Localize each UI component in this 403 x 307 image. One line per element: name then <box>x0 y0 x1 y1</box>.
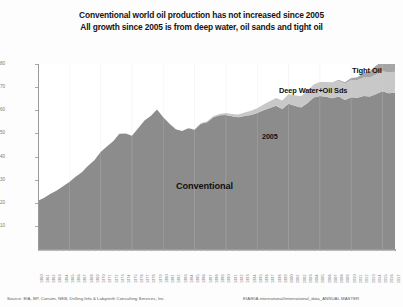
x-tick-label-1986: 1986 <box>202 274 206 283</box>
y-tick-label-70: 70 <box>0 84 5 89</box>
x-tick-mark-1962 <box>51 249 52 251</box>
x-tick-mark-2003 <box>307 249 308 251</box>
y-tick-mark-70 <box>35 87 38 88</box>
x-tick-mark-1994 <box>251 249 252 251</box>
y-axis-line <box>38 64 39 250</box>
x-tick-mark-1965 <box>69 249 70 251</box>
x-tick-label-2009: 2009 <box>346 274 350 283</box>
x-tick-mark-1961 <box>44 249 45 251</box>
area-series-conventional <box>38 91 395 249</box>
y-tick-label-10: 10 <box>0 223 5 228</box>
x-tick-mark-2002 <box>301 249 302 251</box>
x-tick-label-1968: 1968 <box>90 274 94 283</box>
x-tick-label-1976: 1976 <box>140 274 144 283</box>
y-tick-label-50: 50 <box>0 130 5 135</box>
y-tick-label-40: 40 <box>0 154 5 159</box>
x-tick-mark-1982 <box>176 249 177 251</box>
x-tick-label-1993: 1993 <box>246 274 250 283</box>
x-tick-mark-1966 <box>76 249 77 251</box>
x-tick-label-1990: 1990 <box>227 274 231 283</box>
y-tick-label-60: 60 <box>0 107 5 112</box>
x-tick-label-1992: 1992 <box>240 274 244 283</box>
x-tick-mark-1999 <box>282 249 283 251</box>
x-tick-label-2007: 2007 <box>334 274 338 283</box>
x-tick-mark-1979 <box>157 249 158 251</box>
x-tick-label-1962: 1962 <box>52 274 56 283</box>
x-tick-mark-1964 <box>63 249 64 251</box>
x-tick-label-1996: 1996 <box>265 274 269 283</box>
x-tick-label-1985: 1985 <box>196 274 200 283</box>
chart-title-block: Conventional world oil production has no… <box>0 10 403 33</box>
x-tick-mark-2013 <box>370 249 371 251</box>
x-tick-mark-1997 <box>270 249 271 251</box>
x-tick-label-1994: 1994 <box>253 274 257 283</box>
x-tick-mark-1989 <box>220 249 221 251</box>
x-tick-mark-1983 <box>182 249 183 251</box>
x-tick-label-1960: 1960 <box>40 274 44 283</box>
x-tick-mark-2008 <box>339 249 340 251</box>
annotation-year-2005: 2005 <box>262 132 278 141</box>
y-tick-mark-10 <box>35 226 38 227</box>
x-tick-label-1973: 1973 <box>121 274 125 283</box>
x-tick-label-1961: 1961 <box>46 274 50 283</box>
y-tick-mark-30 <box>35 180 38 181</box>
x-tick-label-1978: 1978 <box>152 274 156 283</box>
x-axis-ticks: 1960196119621963196419651966196719681969… <box>38 251 395 285</box>
x-tick-label-2008: 2008 <box>340 274 344 283</box>
x-tick-label-1966: 1966 <box>77 274 81 283</box>
x-tick-mark-1980 <box>163 249 164 251</box>
x-tick-label-1983: 1983 <box>184 274 188 283</box>
x-tick-label-1988: 1988 <box>215 274 219 283</box>
x-tick-label-1997: 1997 <box>271 274 275 283</box>
x-tick-label-1989: 1989 <box>221 274 225 283</box>
x-tick-mark-1986 <box>201 249 202 251</box>
x-tick-mark-1975 <box>132 249 133 251</box>
x-tick-mark-1981 <box>170 249 171 251</box>
y-tick-label-20: 20 <box>0 200 5 205</box>
footer-source-left: Source: EIA, BP, Cansim, NEB, Drilling I… <box>7 296 165 301</box>
chart-title-line-1: Conventional world oil production has no… <box>0 10 403 22</box>
x-tick-label-1965: 1965 <box>71 274 75 283</box>
x-tick-mark-1971 <box>107 249 108 251</box>
x-tick-mark-1970 <box>101 249 102 251</box>
x-tick-mark-2016 <box>389 249 390 251</box>
x-tick-mark-1974 <box>126 249 127 251</box>
x-tick-mark-1978 <box>151 249 152 251</box>
x-tick-mark-1960 <box>38 249 39 251</box>
x-tick-label-1975: 1975 <box>134 274 138 283</box>
x-tick-label-1991: 1991 <box>234 274 238 283</box>
x-tick-mark-1992 <box>238 249 239 251</box>
y-tick-mark-20 <box>35 203 38 204</box>
x-tick-mark-1988 <box>213 249 214 251</box>
x-tick-label-2016: 2016 <box>390 274 394 283</box>
x-tick-label-2014: 2014 <box>378 274 382 283</box>
x-tick-mark-2001 <box>295 249 296 251</box>
x-tick-label-2003: 2003 <box>309 274 313 283</box>
x-tick-mark-1984 <box>188 249 189 251</box>
x-tick-mark-2007 <box>332 249 333 251</box>
x-tick-label-2017: 2017 <box>397 274 401 283</box>
annotation-deep-water: Deep Water+Oil Sds <box>279 86 347 95</box>
x-tick-mark-1990 <box>226 249 227 251</box>
x-tick-mark-1969 <box>94 249 95 251</box>
y-tick-label-30: 30 <box>0 177 5 182</box>
x-tick-mark-1991 <box>232 249 233 251</box>
x-tick-mark-1987 <box>207 249 208 251</box>
y-tick-label-80: 80 <box>0 61 5 66</box>
x-tick-mark-1995 <box>257 249 258 251</box>
x-tick-label-1974: 1974 <box>127 274 131 283</box>
x-tick-label-1979: 1979 <box>159 274 163 283</box>
x-tick-label-2010: 2010 <box>353 274 357 283</box>
x-tick-label-1984: 1984 <box>190 274 194 283</box>
x-tick-label-1981: 1981 <box>171 274 175 283</box>
x-tick-mark-1985 <box>195 249 196 251</box>
x-tick-mark-2010 <box>351 249 352 251</box>
x-tick-mark-1967 <box>82 249 83 251</box>
y-tick-mark-40 <box>35 157 38 158</box>
footer-source-right: EIA/EIA international/international_data… <box>243 296 359 301</box>
x-tick-label-1970: 1970 <box>102 274 106 283</box>
x-tick-label-1982: 1982 <box>177 274 181 283</box>
x-tick-mark-1998 <box>276 249 277 251</box>
x-tick-mark-2017 <box>395 249 396 251</box>
x-tick-label-2000: 2000 <box>290 274 294 283</box>
